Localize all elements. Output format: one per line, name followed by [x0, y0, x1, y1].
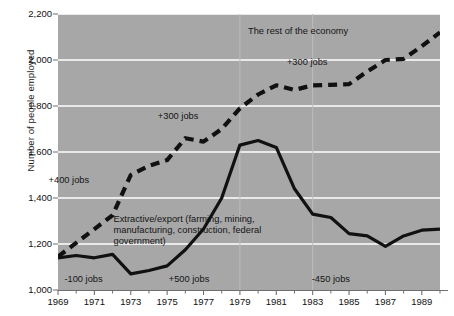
x-tick-label: 1989	[402, 297, 442, 307]
chart-annotation: The rest of the economy	[248, 26, 348, 37]
x-tick-label: 1987	[365, 297, 405, 307]
chart-annotation: +500 jobs	[169, 274, 210, 285]
chart-annotation: -100 jobs	[64, 274, 102, 285]
x-tick-label: 1983	[293, 297, 333, 307]
plot-area: The rest of the economy+300 jobs+300 job…	[58, 14, 440, 290]
x-tick-label: 1977	[184, 297, 224, 307]
chart-annotation: -450 jobs	[312, 274, 350, 285]
chart-annotation: +400 jobs	[49, 175, 90, 186]
x-tick-label: 1973	[111, 297, 151, 307]
x-tick-label: 1985	[329, 297, 369, 307]
x-tick-label: 1979	[220, 297, 260, 307]
x-tick-label: 1969	[38, 297, 78, 307]
chart-annotation: +300 jobs	[158, 111, 199, 122]
x-tick-label: 1971	[74, 297, 114, 307]
plot-lines-svg	[58, 14, 440, 290]
chart-figure: Number of people employed 1,0001,2001,40…	[0, 0, 454, 316]
chart-annotation: Extractive/export (farming, mining, manu…	[114, 214, 294, 247]
x-tick-label: 1975	[147, 297, 187, 307]
x-tick-label: 1981	[256, 297, 296, 307]
chart-annotation: +300 jobs	[287, 57, 328, 68]
gridlines	[58, 14, 440, 290]
